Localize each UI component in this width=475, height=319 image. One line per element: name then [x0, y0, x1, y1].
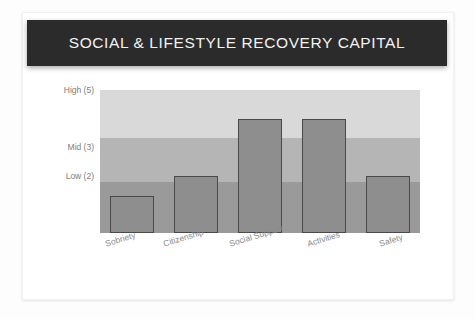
- x-axis-tick-label: Sobriety: [104, 230, 137, 249]
- x-axis-tick-label: Safety: [378, 232, 404, 249]
- screenshot-root: SOCIAL & LIFESTYLE RECOVERY CAPITAL High…: [0, 0, 475, 319]
- y-axis: High (5)Mid (3)Low (2): [32, 0, 94, 319]
- bar: [174, 176, 219, 233]
- x-axis: SobrietyCitizenshipSocial SupportActivit…: [100, 233, 430, 278]
- y-axis-tick-label: Low (2): [34, 171, 94, 181]
- bar: [110, 196, 155, 233]
- y-axis-tick-label: High (5): [34, 85, 94, 95]
- y-axis-tick-label: Mid (3): [34, 142, 94, 152]
- plot-area: [100, 90, 420, 233]
- bar-chart: High (5)Mid (3)Low (2) SobrietyCitizensh…: [0, 0, 475, 319]
- x-axis-tick-label: Activities: [306, 229, 341, 248]
- bar: [302, 119, 347, 233]
- bar: [238, 119, 283, 233]
- bar: [366, 176, 411, 233]
